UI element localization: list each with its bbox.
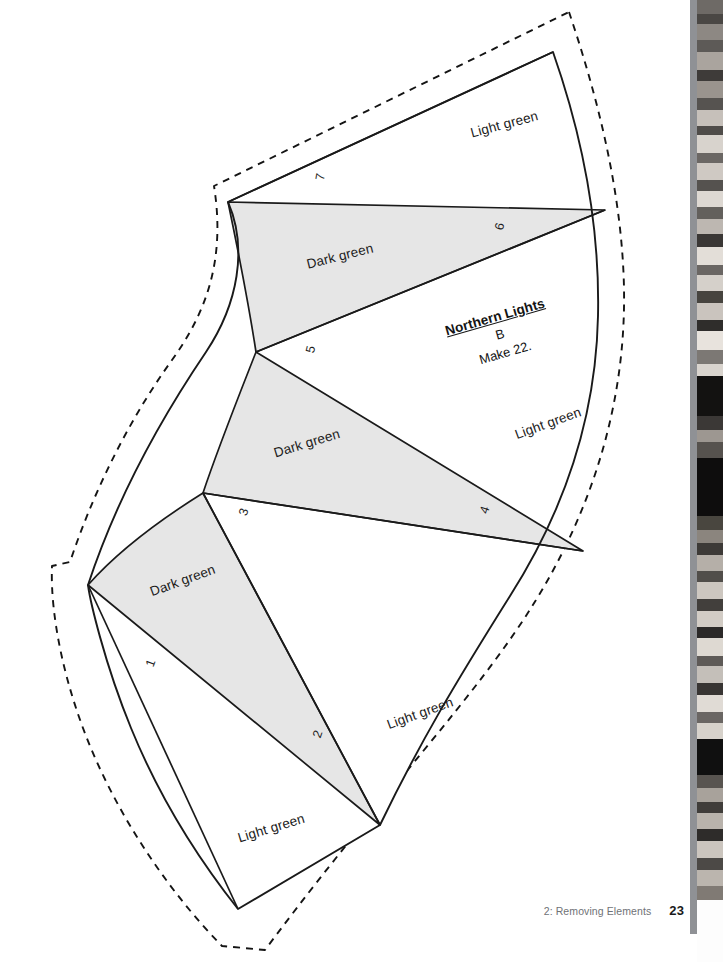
photo-band [697,110,723,126]
photo-band [697,364,723,376]
photo-band [697,638,723,656]
photo-band [697,0,723,14]
photo-band [697,98,723,110]
photo-band [697,442,723,458]
photo-band [697,52,723,70]
photo-band [697,530,723,543]
photo-band [697,627,723,638]
photo-band [697,683,723,695]
photo-band [697,656,723,666]
photo-band [697,788,723,802]
photo-band [697,247,723,265]
page-canvas: 7 Light green 6 Dark green 5 Dark green … [0,0,723,962]
photo-band [697,163,723,180]
photo-band [697,858,723,870]
edge-photo-strip [690,0,723,962]
photo-band [697,180,723,191]
photo-band [697,739,723,775]
photo-band [697,430,723,442]
photo-band [697,813,723,829]
photo-band [697,886,723,900]
photo-band [697,802,723,813]
photo-band [697,611,723,627]
photo-band [697,458,723,516]
photo-band [697,81,723,98]
photo-band [697,320,723,331]
photo-band [697,126,723,135]
photo-band [697,376,723,416]
photo-band [697,829,723,841]
quilt-photo-edge [697,0,723,962]
photo-band [697,153,723,163]
photo-band [697,582,723,599]
photo-band [697,40,723,52]
footer-page-number: 23 [669,903,684,918]
photo-band [697,666,723,683]
pattern-template-drawing [0,0,723,962]
footer-section-label: 2: Removing Elements [544,905,652,917]
photo-band [697,516,723,530]
photo-band [697,24,723,40]
photo-band [697,135,723,153]
photo-band [697,543,723,555]
photo-band [697,775,723,788]
photo-band [697,291,723,303]
photo-band [697,350,723,364]
photo-band [697,416,723,430]
photo-band [697,207,723,219]
photo-band [697,695,723,712]
photo-band [697,331,723,350]
photo-band [697,555,723,571]
photo-band [697,599,723,611]
photo-band [697,191,723,207]
photo-band [697,265,723,275]
photo-band [697,571,723,582]
photo-band [697,723,723,739]
photo-band [697,275,723,291]
photo-band [697,70,723,81]
photo-band [697,234,723,247]
photo-band [697,219,723,234]
photo-band [697,841,723,858]
photo-band [697,900,723,962]
photo-band [697,870,723,886]
photo-band [697,14,723,24]
photo-divider-rule [690,0,697,934]
photo-band [697,303,723,320]
page-footer: 2: Removing Elements23 [0,903,684,918]
photo-band [697,712,723,723]
